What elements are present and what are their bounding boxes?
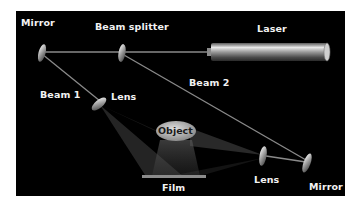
mirror-bottom-icon	[300, 152, 313, 173]
label-mirror-top: Mirror	[21, 17, 55, 28]
label-beam2: Beam 2	[189, 77, 230, 88]
label-lens-right: Lens	[254, 174, 279, 185]
label-film: Film	[162, 182, 185, 193]
label-laser: Laser	[257, 23, 287, 34]
label-lens-left: Lens	[111, 91, 136, 102]
label-beam-splitter: Beam splitter	[95, 21, 169, 32]
label-object: Object	[158, 125, 193, 136]
label-mirror-bottom: Mirror	[309, 181, 343, 192]
laser-icon	[207, 43, 330, 61]
mirror-top-icon	[36, 43, 47, 62]
beam-splitter-icon	[117, 44, 127, 63]
film-plate	[142, 175, 206, 178]
hologram-diagram	[0, 0, 361, 207]
label-beam1: Beam 1	[40, 89, 81, 100]
